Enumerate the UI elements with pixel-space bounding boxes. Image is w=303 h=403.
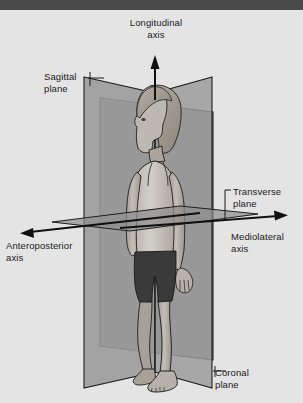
label-anteroposterior-axis: Anteroposterior axis — [6, 240, 72, 263]
label-longitudinal-axis-line2: axis — [108, 29, 204, 41]
label-sagittal-plane: Sagittal plane — [44, 71, 77, 94]
label-coronal-plane: Coronal plane — [215, 367, 249, 390]
label-sagittal-plane-line2: plane — [44, 83, 77, 95]
label-longitudinal-axis-line1: Longitudinal — [108, 17, 204, 29]
label-mediolateral-axis: Mediolateral axis — [231, 231, 284, 254]
label-mediolateral-axis-line2: axis — [231, 243, 284, 255]
label-anteroposterior-axis-line2: axis — [6, 252, 72, 264]
label-coronal-plane-line1: Coronal — [215, 367, 249, 379]
label-transverse-plane: Transverse plane — [233, 186, 281, 209]
label-coronal-plane-line2: plane — [215, 379, 249, 391]
label-mediolateral-axis-line1: Mediolateral — [231, 231, 284, 243]
label-anteroposterior-axis-line1: Anteroposterior — [6, 240, 72, 252]
label-transverse-plane-line1: Transverse — [233, 186, 281, 198]
label-sagittal-plane-line1: Sagittal — [44, 71, 77, 83]
label-transverse-plane-line2: plane — [233, 198, 281, 210]
label-longitudinal-axis: Longitudinal axis — [108, 17, 204, 40]
anatomical-planes-figure: Longitudinal axis Sagittal plane Transve… — [0, 0, 303, 403]
